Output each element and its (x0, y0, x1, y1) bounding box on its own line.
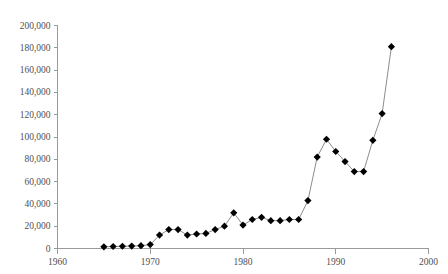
data-point-marker (110, 243, 117, 250)
data-point-marker (193, 230, 200, 237)
y-axis-tick-label: 0 (0, 244, 51, 254)
data-point-marker (100, 243, 107, 250)
data-point-marker (304, 197, 311, 204)
chart-container: 020,00040,00060,00080,000100,000120,0001… (0, 0, 448, 274)
chart-series-line (104, 47, 392, 247)
data-point-marker (369, 137, 376, 144)
data-point-marker (277, 217, 284, 224)
y-axis-tick-label: 20,000 (0, 221, 51, 231)
chart-plot-area (0, 0, 448, 274)
data-point-marker (221, 223, 228, 230)
data-point-marker (267, 217, 274, 224)
y-axis-tick-label: 40,000 (0, 199, 51, 209)
data-point-marker (379, 110, 386, 117)
data-point-marker (360, 168, 367, 175)
y-axis-tick-label: 100,000 (0, 132, 51, 142)
data-point-marker (184, 232, 191, 239)
data-point-marker (249, 216, 256, 223)
x-axis-tick-label: 1980 (234, 257, 253, 267)
data-point-marker (286, 216, 293, 223)
y-axis-tick-label: 180,000 (0, 43, 51, 53)
x-axis-tick-label: 1970 (141, 257, 160, 267)
y-axis-tick-label: 60,000 (0, 177, 51, 187)
chart-data-markers (100, 43, 395, 250)
y-axis-tick-label: 140,000 (0, 87, 51, 97)
data-point-marker (165, 226, 172, 233)
data-point-marker (202, 230, 209, 237)
data-point-marker (314, 153, 321, 160)
data-point-marker (388, 43, 395, 50)
data-point-marker (174, 226, 181, 233)
x-axis-tick-label: 2000 (419, 257, 438, 267)
y-axis-tick-label: 160,000 (0, 65, 51, 75)
data-point-marker (212, 226, 219, 233)
y-axis-tick-label: 120,000 (0, 110, 51, 120)
data-point-marker (295, 216, 302, 223)
data-point-marker (258, 214, 265, 221)
y-axis-tick-label: 80,000 (0, 154, 51, 164)
x-axis-tick-label: 1990 (326, 257, 345, 267)
x-axis-tick-label: 1960 (48, 257, 67, 267)
y-axis-tick-label: 200,000 (0, 21, 51, 31)
